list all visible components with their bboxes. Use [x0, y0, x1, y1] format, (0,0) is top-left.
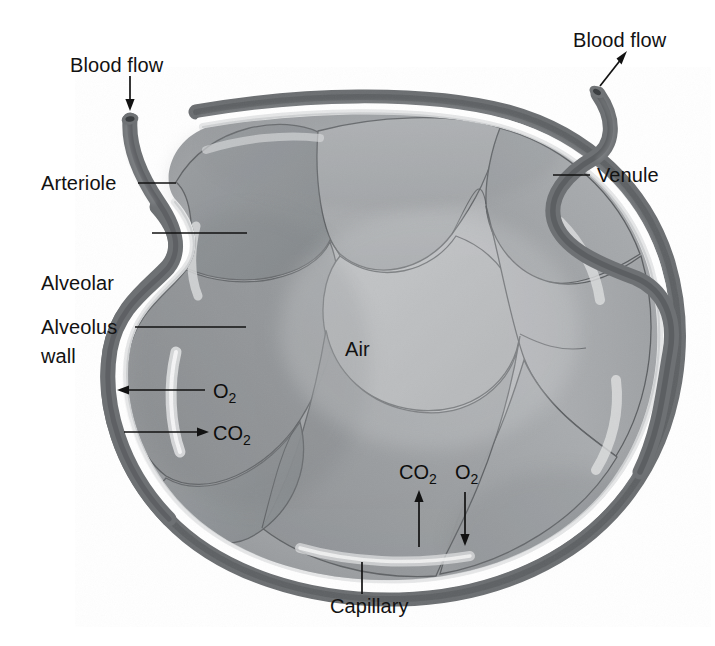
- label-blood-flow-in: Blood flow: [70, 54, 163, 76]
- co2-left-main: CO: [213, 422, 243, 444]
- arrow-blood-flow-out: [600, 51, 627, 86]
- label-alveolus: Alveolus: [41, 316, 117, 338]
- label-co2-bottom: CO2: [399, 461, 437, 487]
- co2-left-sub: 2: [243, 432, 251, 448]
- label-venule: Venule: [597, 164, 659, 186]
- label-alveolar-wall-line2: wall: [41, 344, 114, 368]
- figure-canvas: Blood flow Blood flow Arteriole Alveolar…: [0, 0, 715, 646]
- label-capillary: Capillary: [330, 595, 409, 617]
- label-co2-left: CO2: [213, 422, 251, 448]
- o2-bottom-sub: 2: [471, 471, 479, 487]
- label-o2-bottom: O2: [455, 461, 478, 487]
- label-o2-left: O2: [213, 380, 236, 406]
- label-alveolar-wall-line1: Alveolar: [41, 271, 114, 295]
- label-arteriole: Arteriole: [41, 172, 116, 194]
- label-blood-flow-out: Blood flow: [573, 29, 666, 51]
- co2-bottom-main: CO: [399, 461, 429, 483]
- arrow-blood-flow-in: [125, 76, 134, 111]
- co2-bottom-sub: 2: [429, 471, 437, 487]
- o2-left-main: O: [213, 380, 229, 402]
- o2-bottom-main: O: [455, 461, 471, 483]
- label-air: Air: [345, 338, 370, 360]
- o2-left-sub: 2: [229, 390, 237, 406]
